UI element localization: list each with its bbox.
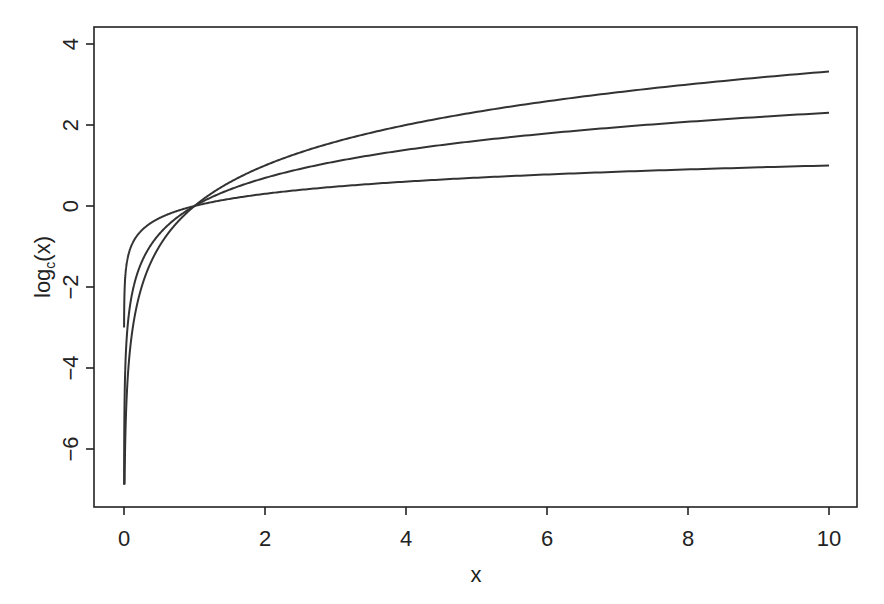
y-axis: −6−4−2024 <box>58 38 95 462</box>
curve-log-base-2 <box>125 71 829 484</box>
x-tick-label: 6 <box>541 526 553 551</box>
y-axis-label: logc(x) <box>30 236 58 298</box>
x-tick-label: 2 <box>259 526 271 551</box>
x-tick-label: 8 <box>682 526 694 551</box>
x-tick-label: 0 <box>118 526 130 551</box>
y-tick-label: −4 <box>58 355 83 380</box>
x-axis-label: x <box>471 562 482 587</box>
log-curves-chart: −6−4−2024 0246810 x logc(x) <box>0 0 884 604</box>
plot-frame <box>94 27 857 507</box>
curves <box>124 71 829 484</box>
y-tick-label: −6 <box>58 436 83 461</box>
x-tick-label: 4 <box>400 526 412 551</box>
x-axis: 0246810 <box>118 507 841 551</box>
x-tick-label: 10 <box>817 526 841 551</box>
y-tick-label: 2 <box>58 119 83 131</box>
y-tick-label: −2 <box>58 274 83 299</box>
y-tick-label: 4 <box>58 38 83 50</box>
y-tick-label: 0 <box>58 200 83 212</box>
